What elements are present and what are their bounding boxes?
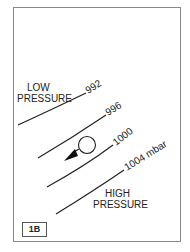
low-pressure-label-line1: LOW bbox=[27, 82, 50, 93]
isobar-992-label: 992 bbox=[83, 77, 103, 95]
isobar-996-label: 996 bbox=[103, 99, 123, 117]
figure-id-badge: 1B bbox=[22, 222, 47, 237]
isobar-diagram: 992 996 1000 1004 mbar LOW PRESSURE HIGH… bbox=[0, 0, 190, 252]
high-pressure-label-line1: HIGH bbox=[105, 188, 130, 199]
high-pressure-label-line2: PRESSURE bbox=[93, 199, 148, 210]
station-circle-icon bbox=[79, 137, 96, 154]
isobar-1000-line bbox=[47, 145, 113, 187]
isobar-996-line bbox=[38, 115, 106, 158]
low-pressure-label-line2: PRESSURE bbox=[17, 93, 72, 104]
isobar-1000-label: 1000 bbox=[110, 125, 135, 148]
isobar-1004-label: 1004 mbar bbox=[122, 138, 169, 173]
